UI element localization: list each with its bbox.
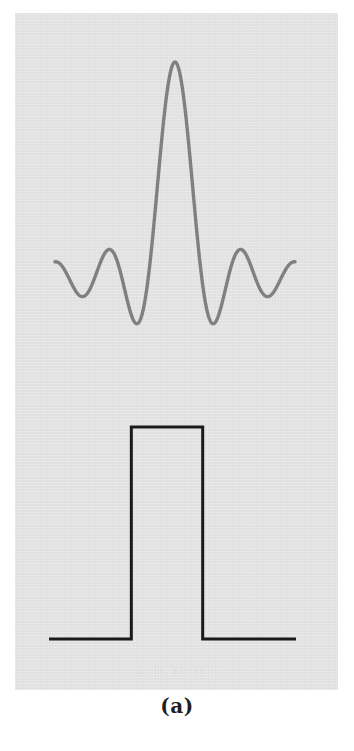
rect-pulse-line: [49, 427, 296, 639]
rect-pulse-plot: [0, 0, 354, 751]
caption-row: (a): [0, 694, 354, 718]
figure-caption-label: (a): [160, 694, 193, 718]
figure-root: ' '' '' '' ' (a): [0, 0, 354, 751]
